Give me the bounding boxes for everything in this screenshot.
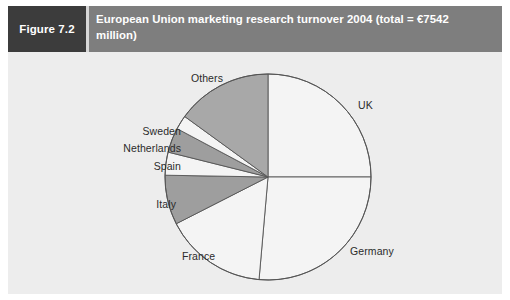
figure-caption-bar: Figure 7.2 European Union marketing rese… xyxy=(8,6,502,52)
pie-label-france: France xyxy=(182,250,215,262)
figure-number-box: Figure 7.2 xyxy=(8,6,86,52)
pie-label-sweden: Sweden xyxy=(66,125,181,137)
pie-slice-germany xyxy=(259,177,371,280)
figure-caption-text: European Union marketing research turnov… xyxy=(96,12,488,43)
figure-panel: Figure 7.2 European Union marketing rese… xyxy=(8,6,502,294)
pie-label-germany: Germany xyxy=(350,245,394,257)
caption-divider xyxy=(86,6,89,52)
pie-label-spain: Spain xyxy=(66,160,181,172)
pie-chart-svg xyxy=(8,52,502,294)
figure-number-label: Figure 7.2 xyxy=(19,23,74,35)
pie-label-others: Others xyxy=(88,72,223,84)
pie-label-netherlands: Netherlands xyxy=(46,142,181,154)
pie-slice-uk xyxy=(268,74,371,177)
pie-chart-area: Others Sweden Netherlands Spain Italy Fr… xyxy=(8,52,502,294)
pie-label-uk: UK xyxy=(358,99,373,111)
pie-label-italy: Italy xyxy=(68,198,176,210)
